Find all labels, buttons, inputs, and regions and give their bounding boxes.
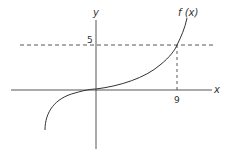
y-axis-label: y [92,7,100,18]
function-curve [45,18,187,130]
y-value-label: 5 [87,35,93,45]
x-value-label: 9 [174,95,180,105]
x-axis-label: x [213,84,220,95]
function-label: f (x) [178,7,198,18]
function-graph: y x f (x) 5 9 [0,0,229,155]
